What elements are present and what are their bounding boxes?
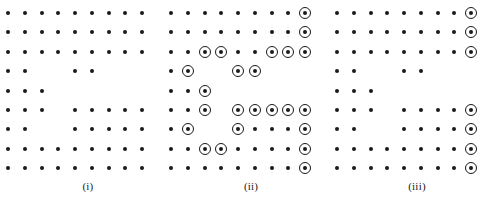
dot-icon xyxy=(40,30,44,34)
dot-icon xyxy=(90,30,94,34)
dot-icon xyxy=(123,127,127,131)
dot-icon xyxy=(419,11,423,15)
dot-icon xyxy=(436,166,440,170)
dot-icon xyxy=(352,30,356,34)
panel-label: (iii) xyxy=(337,180,483,192)
dot-icon xyxy=(419,166,423,170)
dot-icon xyxy=(107,50,111,54)
dot-icon xyxy=(186,11,190,15)
dot-icon xyxy=(352,127,356,131)
dot-icon xyxy=(203,147,207,151)
dot-icon xyxy=(419,108,423,112)
dot-icon xyxy=(169,166,173,170)
dot-icon xyxy=(369,50,373,54)
panel-label: (i) xyxy=(8,180,168,192)
dot-icon xyxy=(402,147,406,151)
dot-icon xyxy=(436,11,440,15)
panel-ii: (ii) xyxy=(171,0,331,200)
dot-icon xyxy=(369,11,373,15)
dot-icon xyxy=(419,30,423,34)
dot-icon xyxy=(140,50,144,54)
dot-icon xyxy=(169,30,173,34)
dot-icon xyxy=(186,108,190,112)
dot-icon xyxy=(369,166,373,170)
dot-icon xyxy=(402,30,406,34)
dot-icon xyxy=(385,147,389,151)
dot-icon xyxy=(236,166,240,170)
dot-icon xyxy=(169,127,173,131)
dot-icon xyxy=(90,147,94,151)
dot-icon xyxy=(369,30,373,34)
dot-icon xyxy=(253,166,257,170)
dot-icon xyxy=(123,50,127,54)
dot-icon xyxy=(23,108,27,112)
dot-icon xyxy=(253,147,257,151)
lattice-grid xyxy=(171,0,331,200)
dot-icon xyxy=(270,108,274,112)
dot-icon xyxy=(169,147,173,151)
dot-icon xyxy=(369,89,373,93)
dot-icon xyxy=(107,30,111,34)
dot-icon xyxy=(335,108,339,112)
dot-icon xyxy=(469,147,473,151)
dot-icon xyxy=(140,108,144,112)
dot-icon xyxy=(90,166,94,170)
dot-icon xyxy=(402,127,406,131)
dot-icon xyxy=(452,108,456,112)
dot-icon xyxy=(123,30,127,34)
dot-icon xyxy=(140,166,144,170)
dot-icon xyxy=(352,108,356,112)
dot-icon xyxy=(303,11,307,15)
dot-icon xyxy=(6,166,10,170)
dot-icon xyxy=(140,127,144,131)
dot-icon xyxy=(402,108,406,112)
dot-icon xyxy=(6,147,10,151)
dot-icon xyxy=(419,69,423,73)
dot-icon xyxy=(303,50,307,54)
dot-icon xyxy=(56,50,60,54)
dot-icon xyxy=(186,147,190,151)
dot-icon xyxy=(203,50,207,54)
dot-icon xyxy=(123,108,127,112)
dot-icon xyxy=(270,11,274,15)
dot-icon xyxy=(203,11,207,15)
dot-icon xyxy=(270,30,274,34)
dot-icon xyxy=(385,11,389,15)
dot-icon xyxy=(203,166,207,170)
dot-icon xyxy=(270,127,274,131)
dot-icon xyxy=(452,11,456,15)
dot-icon xyxy=(23,166,27,170)
dot-icon xyxy=(402,166,406,170)
dot-icon xyxy=(186,30,190,34)
dot-icon xyxy=(236,30,240,34)
dot-icon xyxy=(186,69,190,73)
dot-icon xyxy=(385,50,389,54)
dot-icon xyxy=(469,11,473,15)
dot-icon xyxy=(40,166,44,170)
dot-icon xyxy=(56,11,60,15)
dot-icon xyxy=(123,11,127,15)
dot-icon xyxy=(436,147,440,151)
dot-icon xyxy=(203,89,207,93)
dot-icon xyxy=(123,147,127,151)
panel-iii: (iii) xyxy=(337,0,483,200)
dot-icon xyxy=(169,50,173,54)
dot-icon xyxy=(335,127,339,131)
dot-icon xyxy=(90,69,94,73)
dot-icon xyxy=(73,147,77,151)
dot-icon xyxy=(469,50,473,54)
dot-icon xyxy=(270,147,274,151)
dot-icon xyxy=(352,50,356,54)
dot-icon xyxy=(253,30,257,34)
dot-icon xyxy=(335,147,339,151)
dot-icon xyxy=(107,147,111,151)
dot-icon xyxy=(107,127,111,131)
dot-icon xyxy=(352,166,356,170)
panel-label: (ii) xyxy=(171,180,331,192)
dot-icon xyxy=(452,147,456,151)
dot-icon xyxy=(335,11,339,15)
dot-icon xyxy=(6,89,10,93)
dot-icon xyxy=(90,108,94,112)
dot-icon xyxy=(23,127,27,131)
dot-icon xyxy=(286,147,290,151)
